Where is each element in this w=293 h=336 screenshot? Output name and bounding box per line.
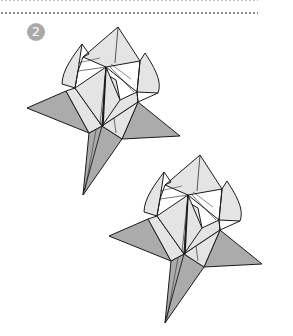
origami-diagram <box>0 0 293 336</box>
origami-flower-1 <box>27 27 180 195</box>
origami-flower-2 <box>109 155 262 323</box>
